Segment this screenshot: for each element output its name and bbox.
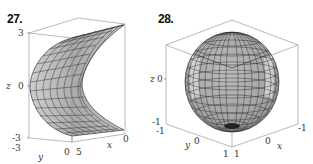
z-tick-0: 0 xyxy=(157,74,163,84)
x-axis-label: x xyxy=(107,140,112,150)
x-tick-1: 1 xyxy=(234,149,240,159)
x-tick-neg1: -1 xyxy=(298,123,307,133)
y-tick-neg3: -3 xyxy=(12,143,21,153)
z-axis-label: z xyxy=(150,74,155,84)
y-tick-neg1: -1 xyxy=(156,126,165,136)
y-tick-1: 1 xyxy=(223,149,229,159)
half-cylinder-plot: 3 z 0 -3 -3 0 y 5 0 x xyxy=(0,0,155,164)
y-axis-label: y xyxy=(184,140,191,150)
z-tick-0: 0 xyxy=(18,81,24,91)
x-tick-5: 5 xyxy=(76,147,82,157)
y-axis-label: y xyxy=(37,152,44,162)
y-tick-0: 0 xyxy=(64,147,70,157)
z-axis-label: z xyxy=(5,81,11,91)
x-tick-0: 0 xyxy=(265,136,271,146)
z-tick-neg3: -3 xyxy=(12,133,21,143)
y-tick-0: 0 xyxy=(194,136,200,146)
x-axis-label: x xyxy=(277,141,282,151)
pole xyxy=(224,123,240,129)
figure-27: 27. xyxy=(0,0,155,164)
z-tick-3: 3 xyxy=(18,28,24,38)
figure-28: 28. xyxy=(150,0,313,164)
x-tick-0: 0 xyxy=(123,134,129,144)
sphere-plot: z 0 -1 -1 0 y 1 1 0 x -1 xyxy=(150,0,313,164)
